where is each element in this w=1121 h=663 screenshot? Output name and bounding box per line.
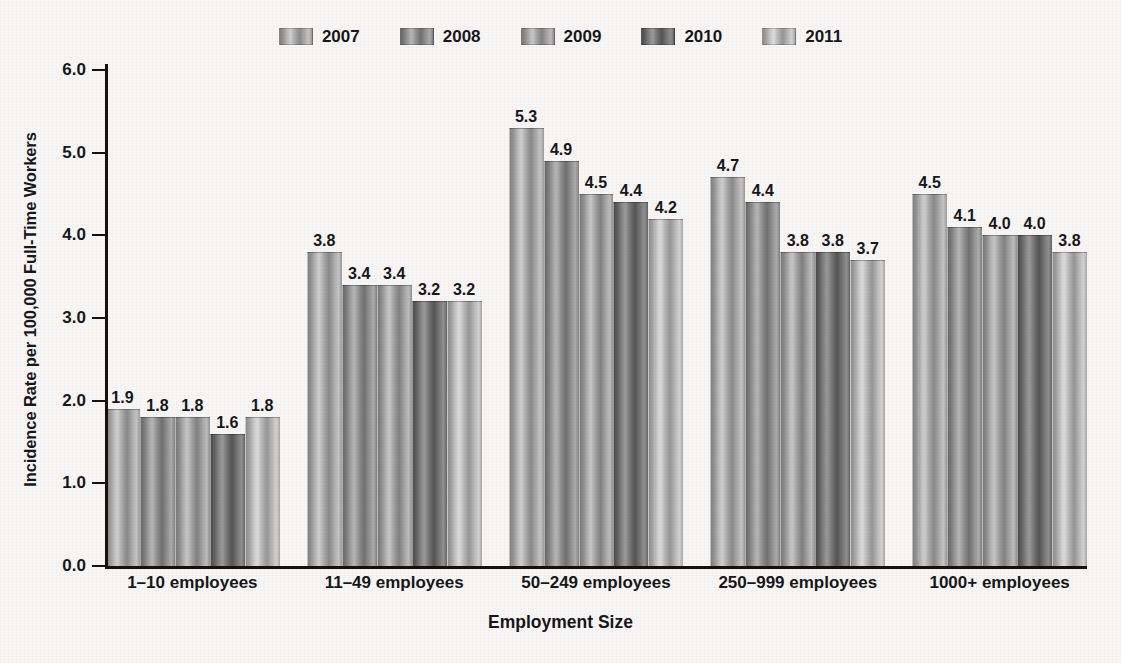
x-axis-label-1000+ employees: 1000+ employees <box>912 574 1087 591</box>
legend-label: 2009 <box>564 28 602 45</box>
bar-rect[interactable] <box>648 219 683 566</box>
legend-label: 2010 <box>684 28 722 45</box>
bar-2007-1–10 employees[interactable]: 1.9 <box>105 70 140 566</box>
bar-2008-11–49 employees[interactable]: 3.4 <box>342 70 377 566</box>
bar-2009-1000+ employees[interactable]: 4.0 <box>982 70 1017 566</box>
bar-value-label: 4.5 <box>919 175 941 191</box>
bar-rect[interactable] <box>342 285 377 566</box>
bar-2010-50–249 employees[interactable]: 4.4 <box>613 70 648 566</box>
bar-rect[interactable] <box>509 128 544 566</box>
bar-2007-50–249 employees[interactable]: 5.3 <box>509 70 544 566</box>
bar-2010-250–999 employees[interactable]: 3.8 <box>815 70 850 566</box>
bar-group-1000+ employees: 4.54.14.04.03.8 <box>912 70 1087 566</box>
legend-label: 2007 <box>322 28 360 45</box>
bar-2010-1–10 employees[interactable]: 1.6 <box>210 70 245 566</box>
bar-rect[interactable] <box>947 227 982 566</box>
bar-2007-250–999 employees[interactable]: 4.7 <box>710 70 745 566</box>
bar-2010-11–49 employees[interactable]: 3.2 <box>412 70 447 566</box>
bar-value-label: 3.4 <box>348 266 370 282</box>
bar-rect[interactable] <box>982 235 1017 566</box>
bar-value-label: 4.7 <box>717 158 739 174</box>
bar-2007-11–49 employees[interactable]: 3.8 <box>307 70 342 566</box>
bar-rect[interactable] <box>377 285 412 566</box>
bar-2009-50–249 employees[interactable]: 4.5 <box>579 70 614 566</box>
bar-2008-1000+ employees[interactable]: 4.1 <box>947 70 982 566</box>
legend-swatch-icon-2009 <box>521 28 555 45</box>
bar-2007-1000+ employees[interactable]: 4.5 <box>912 70 947 566</box>
bar-group-250–999 employees: 4.74.43.83.83.7 <box>710 70 885 566</box>
bar-value-label: 3.2 <box>418 282 440 298</box>
x-axis-label-250–999 employees: 250–999 employees <box>710 574 885 591</box>
bar-rect[interactable] <box>175 417 210 566</box>
bar-value-label: 5.3 <box>515 109 537 125</box>
bar-2011-11–49 employees[interactable]: 3.2 <box>447 70 482 566</box>
bar-value-label: 1.8 <box>251 398 273 414</box>
bar-rect[interactable] <box>140 417 175 566</box>
bar-group-11–49 employees: 3.83.43.43.23.2 <box>307 70 482 566</box>
legend-item-2011[interactable]: 2011 <box>762 28 842 45</box>
bar-2011-250–999 employees[interactable]: 3.7 <box>850 70 885 566</box>
bar-value-label: 1.8 <box>181 398 203 414</box>
bar-value-label: 3.8 <box>787 233 809 249</box>
y-axis-tick-label: 2.0 <box>40 392 86 409</box>
y-axis-tick <box>92 400 105 402</box>
bar-2011-1–10 employees[interactable]: 1.8 <box>245 70 280 566</box>
bar-rect[interactable] <box>1017 235 1052 566</box>
bar-rect[interactable] <box>850 260 885 566</box>
bar-value-label: 4.0 <box>1023 216 1045 232</box>
bar-rect[interactable] <box>210 434 245 566</box>
bar-rect[interactable] <box>613 202 648 566</box>
bar-2009-11–49 employees[interactable]: 3.4 <box>377 70 412 566</box>
bar-value-label: 1.8 <box>146 398 168 414</box>
y-axis-tick-label: 5.0 <box>40 144 86 161</box>
bar-2008-1–10 employees[interactable]: 1.8 <box>140 70 175 566</box>
bar-2010-1000+ employees[interactable]: 4.0 <box>1017 70 1052 566</box>
bar-rect[interactable] <box>780 252 815 566</box>
bar-rect[interactable] <box>245 417 280 566</box>
bar-rect[interactable] <box>544 161 579 566</box>
legend-swatch-icon-2011 <box>762 28 796 45</box>
bar-rect[interactable] <box>447 301 482 566</box>
bar-group-1–10 employees: 1.91.81.81.61.8 <box>105 70 280 566</box>
bar-2009-1–10 employees[interactable]: 1.8 <box>175 70 210 566</box>
bar-rect[interactable] <box>815 252 850 566</box>
chart-page: 20072008200920102011 Incidence Rate per … <box>0 0 1121 663</box>
y-axis-tick <box>92 69 105 71</box>
bar-group-50–249 employees: 5.34.94.54.44.2 <box>509 70 684 566</box>
bar-2009-250–999 employees[interactable]: 3.8 <box>780 70 815 566</box>
y-axis-tick-label: 1.0 <box>40 474 86 491</box>
legend-item-2007[interactable]: 2007 <box>279 28 360 45</box>
x-axis-line <box>105 566 1087 569</box>
bar-value-label: 4.4 <box>752 183 774 199</box>
bar-rect[interactable] <box>912 194 947 566</box>
bar-rect[interactable] <box>1052 252 1087 566</box>
bar-value-label: 3.8 <box>1058 233 1080 249</box>
y-axis-tick-label: 0.0 <box>40 557 86 574</box>
bar-2011-50–249 employees[interactable]: 4.2 <box>648 70 683 566</box>
legend-item-2010[interactable]: 2010 <box>641 28 722 45</box>
x-axis-label-50–249 employees: 50–249 employees <box>509 574 684 591</box>
bar-value-label: 4.4 <box>620 183 642 199</box>
bar-2011-1000+ employees[interactable]: 3.8 <box>1052 70 1087 566</box>
bar-value-label: 3.8 <box>822 233 844 249</box>
bar-value-label: 1.6 <box>216 415 238 431</box>
y-axis-tick <box>92 234 105 236</box>
bar-rect[interactable] <box>710 177 745 566</box>
bar-rect[interactable] <box>745 202 780 566</box>
bar-rect[interactable] <box>412 301 447 566</box>
legend-item-2009[interactable]: 2009 <box>521 28 602 45</box>
legend-item-2008[interactable]: 2008 <box>400 28 481 45</box>
y-axis-tick-label: 6.0 <box>40 61 86 78</box>
legend-swatch-icon-2010 <box>641 28 675 45</box>
y-axis-tick <box>92 482 105 484</box>
x-axis-label-11–49 employees: 11–49 employees <box>307 574 482 591</box>
bar-2008-250–999 employees[interactable]: 4.4 <box>745 70 780 566</box>
bar-rect[interactable] <box>307 252 342 566</box>
bar-value-label: 3.7 <box>857 241 879 257</box>
bar-rect[interactable] <box>105 409 140 566</box>
y-axis-tick <box>92 152 105 154</box>
bar-2008-50–249 employees[interactable]: 4.9 <box>544 70 579 566</box>
x-axis-label-1–10 employees: 1–10 employees <box>105 574 280 591</box>
y-axis-tick <box>92 317 105 319</box>
bar-rect[interactable] <box>579 194 614 566</box>
